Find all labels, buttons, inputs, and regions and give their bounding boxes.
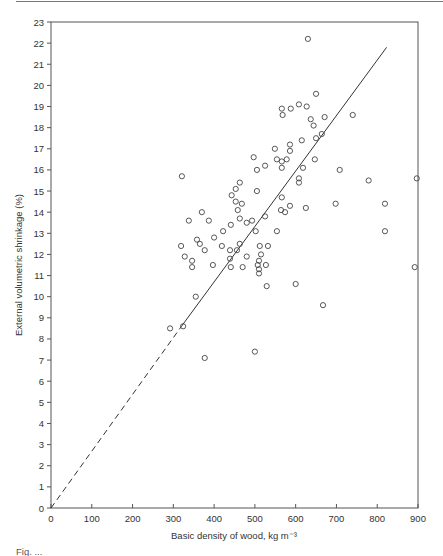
- x-axis-title: Basic density of wood, kg m⁻³: [171, 530, 297, 541]
- data-point: [257, 243, 262, 248]
- figure-caption: Fig. ...: [16, 546, 443, 556]
- data-point: [189, 265, 194, 270]
- data-point: [312, 157, 317, 162]
- data-point: [284, 157, 289, 162]
- data-point: [300, 165, 305, 170]
- data-point: [202, 355, 207, 360]
- data-point: [251, 155, 256, 160]
- data-point: [253, 229, 258, 234]
- y-tick-label: 7: [39, 355, 44, 366]
- data-point: [178, 243, 183, 248]
- y-tick-label: 22: [33, 38, 44, 49]
- data-point: [239, 201, 244, 206]
- data-point: [197, 241, 202, 246]
- data-point: [296, 102, 301, 107]
- x-tick-label: 200: [125, 513, 141, 524]
- data-point: [337, 167, 342, 172]
- data-point: [189, 258, 194, 263]
- y-tick-label: 4: [39, 418, 44, 429]
- data-point: [304, 104, 309, 109]
- data-point: [313, 91, 318, 96]
- data-point: [193, 294, 198, 299]
- data-point: [274, 157, 279, 162]
- data-point: [279, 165, 284, 170]
- y-tick-label: 2: [39, 460, 44, 471]
- data-point: [212, 235, 217, 240]
- x-tick-label: 300: [165, 513, 181, 524]
- data-point: [333, 201, 338, 206]
- y-tick-label: 20: [33, 80, 44, 91]
- data-point: [262, 163, 267, 168]
- x-tick-label: 100: [84, 513, 100, 524]
- data-point: [233, 186, 238, 191]
- y-tick-label: 17: [33, 143, 44, 154]
- data-point: [262, 214, 267, 219]
- y-tick-label: 8: [39, 333, 44, 344]
- data-point: [220, 229, 225, 234]
- data-point: [264, 284, 269, 289]
- y-tick-label: 23: [33, 17, 44, 28]
- y-tick-label: 15: [33, 186, 44, 197]
- data-point: [305, 36, 310, 41]
- y-axis-title: External volumetric shrinkage (%): [13, 194, 24, 336]
- data-points: [167, 36, 419, 360]
- y-tick-label: 11: [34, 270, 44, 281]
- x-tick-label: 0: [48, 513, 53, 524]
- x-tick-label: 800: [369, 513, 385, 524]
- data-point: [414, 176, 419, 181]
- data-point: [350, 112, 355, 117]
- y-tick-label: 21: [33, 59, 44, 70]
- data-point: [237, 216, 242, 221]
- data-point: [272, 146, 277, 151]
- fit-line-dashed: [51, 326, 181, 508]
- y-tick-label: 12: [33, 249, 44, 260]
- scatter-chart: 01234567891011121314151617181920212223 0…: [0, 0, 443, 556]
- data-point: [322, 114, 327, 119]
- fit-line-solid: [181, 47, 386, 326]
- x-tick-label: 400: [206, 513, 222, 524]
- y-tick-label: 10: [33, 291, 44, 302]
- data-point: [313, 136, 318, 141]
- y-tick-label: 6: [39, 376, 44, 387]
- data-point: [287, 142, 292, 147]
- data-point: [299, 138, 304, 143]
- y-tick-label: 19: [33, 101, 44, 112]
- data-point: [244, 254, 249, 259]
- data-point: [179, 174, 184, 179]
- data-point: [280, 112, 285, 117]
- data-point: [206, 218, 211, 223]
- data-point: [237, 180, 242, 185]
- data-point: [274, 229, 279, 234]
- data-point: [311, 123, 316, 128]
- x-tick-label: 900: [410, 513, 426, 524]
- data-point: [240, 265, 245, 270]
- data-point: [186, 218, 191, 223]
- data-point: [287, 148, 292, 153]
- x-tick-label: 500: [247, 513, 263, 524]
- data-point: [303, 205, 308, 210]
- data-point: [287, 203, 292, 208]
- y-tick-label: 1: [39, 481, 44, 492]
- data-point: [167, 326, 172, 331]
- plot-frame: [51, 22, 418, 508]
- data-point: [228, 222, 233, 227]
- data-point: [288, 106, 293, 111]
- data-point: [293, 281, 298, 286]
- data-point: [382, 229, 387, 234]
- data-point: [382, 201, 387, 206]
- y-tick-label: 18: [33, 122, 44, 133]
- data-point: [412, 265, 417, 270]
- data-point: [229, 193, 234, 198]
- data-point: [244, 220, 249, 225]
- data-point: [265, 243, 270, 248]
- data-point: [228, 265, 233, 270]
- data-point: [210, 262, 215, 267]
- data-point: [279, 159, 284, 164]
- data-point: [279, 106, 284, 111]
- data-point: [258, 252, 263, 257]
- data-point: [235, 207, 240, 212]
- data-point: [254, 167, 259, 172]
- data-point: [254, 188, 259, 193]
- data-point: [366, 178, 371, 183]
- y-tick-label: 9: [39, 312, 44, 323]
